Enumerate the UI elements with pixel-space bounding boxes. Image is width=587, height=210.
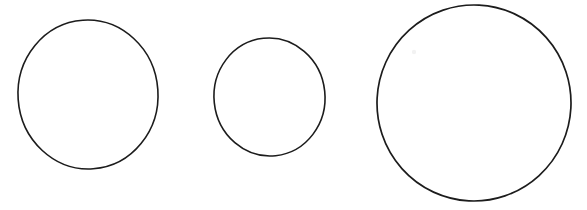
canvas-background: [0, 0, 587, 210]
drawing-canvas: [0, 0, 587, 210]
faint-smudge: [412, 50, 416, 54]
circles-figure: [0, 0, 587, 210]
